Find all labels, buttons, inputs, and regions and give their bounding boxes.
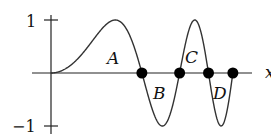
region-label-c: C [185, 47, 198, 67]
region-label-a: A [105, 48, 119, 68]
region-label-b: B [152, 83, 166, 103]
zero-dot-3 [203, 68, 214, 79]
sin-x-squared-diagram: 1 −1 x A B C D [0, 0, 271, 137]
x-axis-label: x [265, 62, 271, 82]
zero-dot-4 [227, 68, 238, 79]
y-tick-label-bottom: −1 [12, 117, 36, 136]
region-label-d: D [212, 83, 227, 103]
zero-dot-1 [136, 68, 147, 79]
zero-dot-2 [174, 68, 185, 79]
y-tick-label-top: 1 [26, 12, 36, 31]
